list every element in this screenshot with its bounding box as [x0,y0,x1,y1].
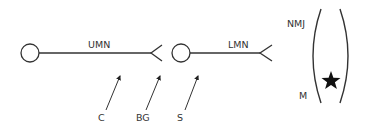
arrow-s [185,76,198,110]
muscle-left-paren-icon [313,9,321,103]
lower-motor-neuron [172,44,272,62]
umn-cell-body-icon [21,44,39,62]
muscle-right-paren-icon [340,9,348,103]
arrow-c [106,76,120,110]
bg-label: BG [136,113,150,123]
muscle-label: M [299,91,307,101]
motor-pathway-diagram [0,0,368,131]
star-icon [322,71,341,89]
muscle [313,9,348,103]
lmn-label: LMN [228,40,249,50]
nmj-label: NMJ [287,19,305,29]
umn-terminal-fork-icon [151,45,162,61]
arrow-bg [146,76,160,110]
lmn-terminal-fork-icon [260,45,272,61]
umn-label: UMN [88,40,110,50]
s-label: S [177,113,183,123]
lmn-cell-body-icon [172,44,190,62]
c-label: C [98,113,105,123]
